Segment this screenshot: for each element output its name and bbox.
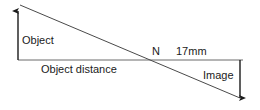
object-label: Object: [22, 35, 54, 46]
ray-diagram-canvas: [0, 0, 260, 110]
chief-ray-line: [20, 5, 240, 98]
image-label: Image: [203, 70, 234, 81]
nodal-point-label: N: [152, 46, 160, 57]
focal-length-label: 17mm: [176, 46, 207, 57]
ray-diagram: Object Object distance N 17mm Image: [0, 0, 260, 110]
object-distance-label: Object distance: [41, 64, 117, 75]
